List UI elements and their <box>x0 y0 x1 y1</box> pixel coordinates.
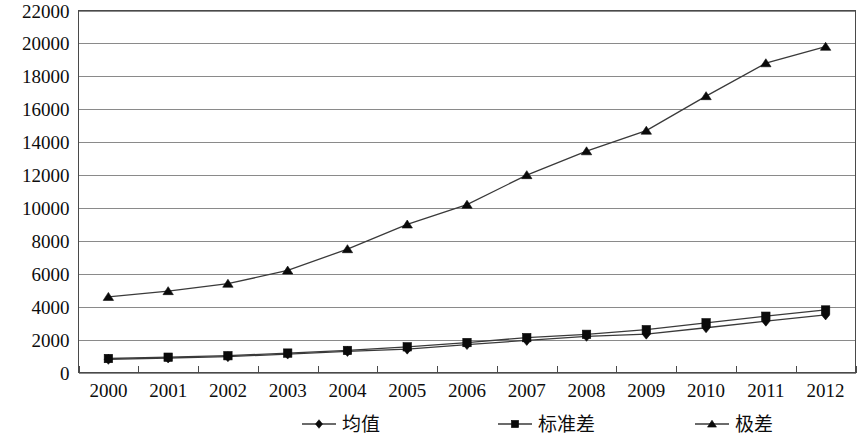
x-axis-tick-label: 2010 <box>687 380 725 401</box>
x-axis-tick-label: 2005 <box>388 380 426 401</box>
series-3 <box>103 42 831 300</box>
legend-marker-diamond-icon <box>315 420 322 429</box>
data-point-marker <box>462 200 472 208</box>
y-axis-tick-label: 10000 <box>22 198 70 219</box>
data-point-marker <box>821 306 829 314</box>
data-point-marker <box>523 333 531 341</box>
data-point-marker <box>582 330 590 338</box>
x-axis-tick-label: 2001 <box>149 380 187 401</box>
y-axis-tick-label: 8000 <box>32 231 70 252</box>
series-line <box>108 47 825 297</box>
data-point-marker <box>342 245 352 253</box>
data-point-marker <box>701 92 711 100</box>
y-axis-tick-label: 4000 <box>32 297 70 318</box>
chart-legend: 均值标准差极差 <box>302 414 773 435</box>
legend-label: 极差 <box>735 414 773 435</box>
data-point-marker <box>522 171 532 179</box>
x-axis-tick-label: 2007 <box>508 380 546 401</box>
data-point-marker <box>282 266 292 274</box>
y-axis-tick-label: 20000 <box>22 33 70 54</box>
data-point-marker <box>164 353 172 361</box>
legend-item-1[interactable]: 均值 <box>302 414 380 435</box>
data-point-marker <box>403 343 411 351</box>
x-axis-tick-label: 2004 <box>328 380 367 401</box>
data-series <box>103 42 831 364</box>
x-axis-tick-label: 2012 <box>807 380 845 401</box>
legend-label: 均值 <box>342 414 380 435</box>
legend-item-2[interactable]: 标准差 <box>498 414 595 435</box>
legend-marker-square-icon <box>511 420 518 427</box>
y-axis-tick-label: 2000 <box>32 330 70 351</box>
data-point-marker <box>224 352 232 360</box>
y-axis-tick-label: 16000 <box>22 99 70 120</box>
x-axis-tick-label: 2006 <box>448 380 486 401</box>
data-point-marker <box>641 126 651 134</box>
x-axis-tick-labels: 2000200120022003200420052006200720082009… <box>89 380 844 401</box>
chart-canvas: 0200040006000800010000120001400016000180… <box>0 0 860 444</box>
x-axis-tick-label: 2008 <box>568 380 606 401</box>
y-axis-tick-label: 6000 <box>32 264 70 285</box>
data-point-marker <box>702 319 710 327</box>
x-axis-ticks <box>80 366 857 373</box>
data-point-marker <box>642 326 650 334</box>
series-2 <box>104 306 830 363</box>
series-line <box>108 310 825 359</box>
x-axis-tick-label: 2011 <box>747 380 784 401</box>
y-axis-tick-labels: 0200040006000800010000120001400016000180… <box>22 1 70 384</box>
data-point-marker <box>343 346 351 354</box>
data-point-marker <box>762 312 770 320</box>
plot-area-border <box>79 11 856 373</box>
x-axis-tick-label: 2003 <box>269 380 307 401</box>
x-axis-tick-label: 2002 <box>209 380 247 401</box>
x-axis-tick-label: 2009 <box>627 380 665 401</box>
y-axis-tick-label: 0 <box>60 363 70 384</box>
y-axis-tick-label: 22000 <box>22 1 70 22</box>
legend-item-3[interactable]: 极差 <box>695 414 773 435</box>
line-chart: 0200040006000800010000120001400016000180… <box>0 0 860 444</box>
x-axis-tick-label: 2000 <box>89 380 127 401</box>
y-axis-tick-label: 18000 <box>22 66 70 87</box>
y-axis-tick-label: 14000 <box>22 132 70 153</box>
data-point-marker <box>283 349 291 357</box>
data-point-marker <box>463 338 471 346</box>
data-point-marker <box>581 147 591 155</box>
legend-label: 标准差 <box>538 414 595 435</box>
data-point-marker <box>402 220 412 228</box>
y-axis-tick-label: 12000 <box>22 165 70 186</box>
data-point-marker <box>104 354 112 362</box>
